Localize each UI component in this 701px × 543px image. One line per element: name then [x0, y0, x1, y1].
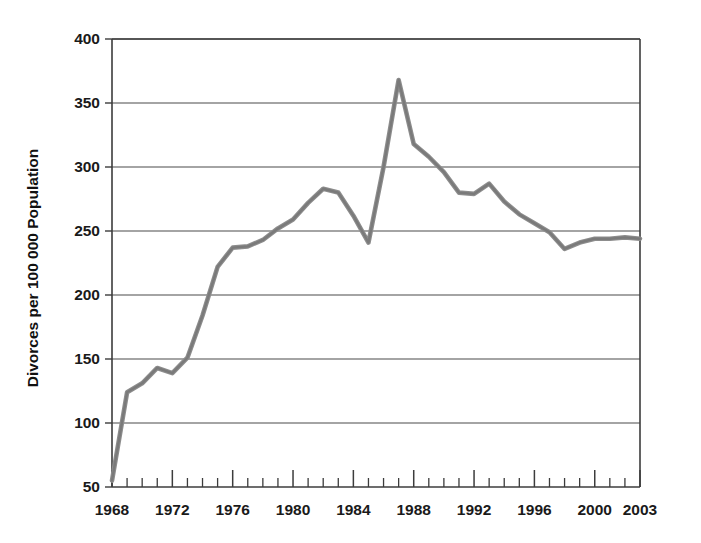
y-tick-label-50: 50: [83, 478, 100, 495]
x-tick-label-1996: 1996: [517, 501, 552, 518]
divorce-rate-line-chart: 40035030025020015010050 1968197219761980…: [0, 0, 701, 543]
y-tick-label-150: 150: [74, 350, 100, 367]
x-tick-label-1976: 1976: [215, 501, 250, 518]
y-axis-title: Divorces per 100 000 Population: [24, 149, 41, 388]
y-axis: [105, 39, 640, 487]
x-tick-label-1980: 1980: [276, 501, 310, 518]
x-tick-label-1972: 1972: [155, 501, 189, 518]
y-tick-labels: 40035030025020015010050: [74, 30, 100, 495]
y-tick-label-200: 200: [74, 286, 100, 303]
gridlines: [112, 39, 640, 423]
x-tick-label-1968: 1968: [95, 501, 130, 518]
x-tick-label-1988: 1988: [396, 501, 431, 518]
y-tick-label-300: 300: [74, 158, 100, 175]
y-tick-label-100: 100: [74, 414, 100, 431]
x-tick-label-1992: 1992: [457, 501, 491, 518]
y-tick-label-250: 250: [74, 222, 100, 239]
x-axis: [112, 470, 640, 487]
x-tick-label-2003: 2003: [623, 501, 658, 518]
y-tick-label-350: 350: [74, 94, 100, 111]
y-tick-label-400: 400: [74, 30, 100, 47]
x-tick-labels: 1968197219761980198419881992199620002003: [95, 501, 658, 518]
x-tick-label-1984: 1984: [336, 501, 371, 518]
x-tick-label-2000: 2000: [578, 501, 612, 518]
chart-figure: 40035030025020015010050 1968197219761980…: [0, 0, 701, 543]
divorce-rate-line-core: [112, 80, 640, 481]
divorce-rate-line: [112, 80, 640, 481]
